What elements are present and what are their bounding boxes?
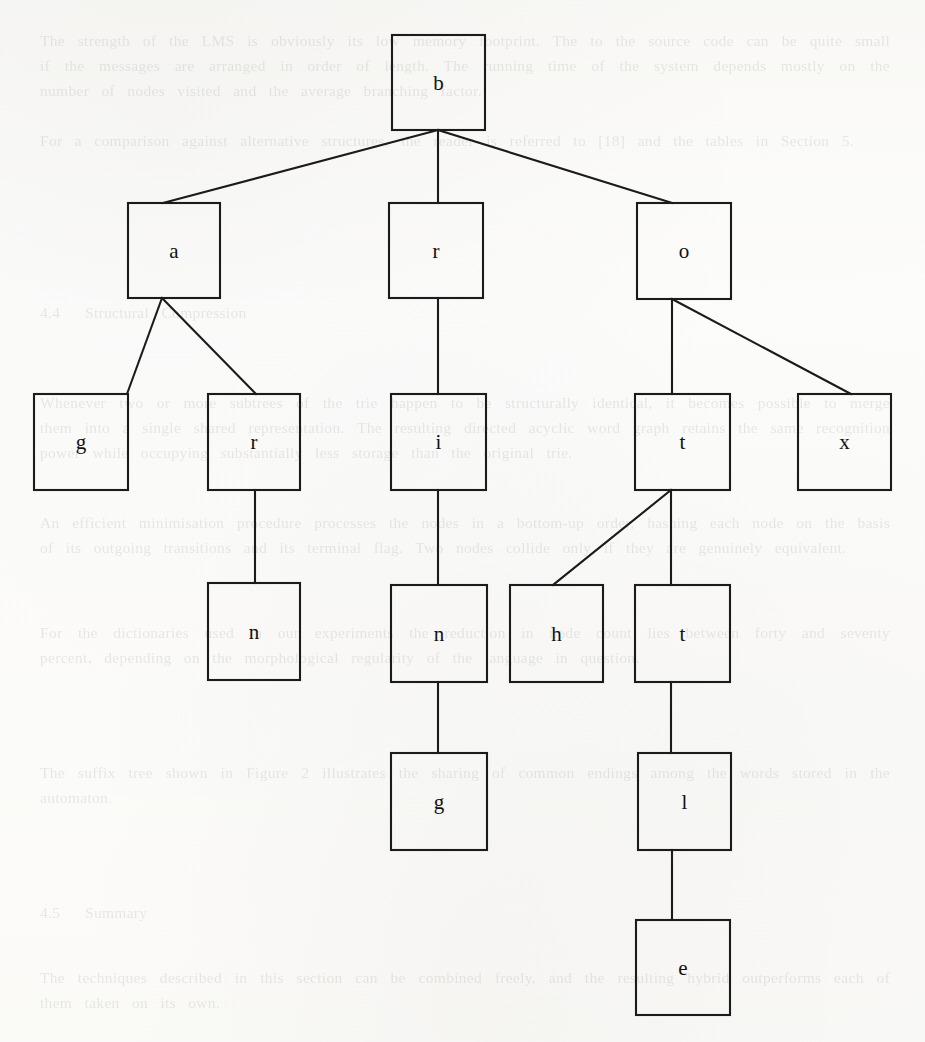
tree-node: t [635, 585, 730, 682]
node-label: t [680, 430, 686, 454]
tree-edge [162, 298, 256, 394]
tree-edge [553, 490, 671, 585]
node-label: g [434, 790, 445, 814]
tree-edges [127, 130, 851, 920]
tree-node: b [392, 35, 485, 130]
tree-nodes: barogritxnnhtgle [34, 35, 891, 1015]
tree-node: g [34, 394, 128, 490]
tree-node: t [635, 394, 730, 490]
tree-edge [127, 298, 162, 394]
tree-node: h [510, 585, 603, 682]
tree-node: r [389, 203, 483, 298]
tree-node: n [391, 585, 487, 682]
node-label: e [678, 956, 687, 980]
node-label: o [679, 239, 690, 263]
tree-node: n [208, 583, 300, 680]
tree-node: r [208, 394, 300, 490]
trie-diagram: barogritxnnhtgle [0, 0, 925, 1042]
node-label: l [682, 790, 688, 814]
node-label: i [436, 430, 442, 454]
tree-node: a [128, 203, 220, 298]
node-label: x [839, 430, 850, 454]
tree-edge [438, 130, 672, 203]
tree-edge [672, 299, 851, 394]
node-label: t [680, 622, 686, 646]
node-label: h [551, 622, 562, 646]
node-label: r [433, 239, 440, 263]
tree-edge [163, 130, 438, 203]
node-label: n [434, 622, 445, 646]
node-label: a [169, 239, 179, 263]
tree-node: e [636, 920, 730, 1015]
node-label: r [251, 430, 258, 454]
node-label: b [433, 71, 444, 95]
tree-node: i [391, 394, 486, 490]
tree-node: l [638, 753, 731, 850]
tree-node: x [798, 394, 891, 490]
node-label: g [76, 430, 87, 454]
tree-node: g [391, 753, 487, 850]
scanned-page: The strength of the LMS is obviously its… [0, 0, 925, 1042]
node-label: n [249, 620, 260, 644]
tree-node: o [637, 203, 731, 299]
